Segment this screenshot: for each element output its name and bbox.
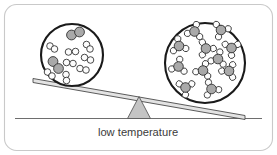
diagram-root: low temperature: [0, 0, 277, 155]
equilibrium-balance-diagram: low temperature: [0, 0, 277, 155]
left-flask: [41, 24, 103, 86]
caption-low-temperature: low temperature: [98, 126, 178, 138]
